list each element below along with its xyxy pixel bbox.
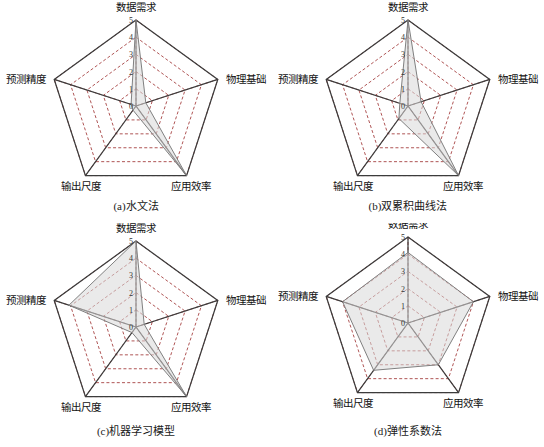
radar-panel-b: 012345数据需求物理基础应用效率输出尺度预测精度 (b)双累积曲线法 bbox=[272, 0, 544, 223]
radial-tick-label: 0 bbox=[129, 102, 133, 111]
radial-tick-label: 4 bbox=[129, 33, 133, 42]
radar-panel-a: 012345数据需求物理基础应用效率输出尺度预测精度 (a)水文法 bbox=[0, 0, 272, 223]
radar-chart-d: 012345数据需求物理基础应用效率输出尺度预测精度 bbox=[272, 223, 544, 447]
radial-tick-label: 3 bbox=[129, 271, 133, 280]
radial-tick-label: 3 bbox=[401, 267, 405, 276]
radial-tick-label: 2 bbox=[401, 285, 405, 294]
radar-panel-d: 012345数据需求物理基础应用效率输出尺度预测精度 (d)弹性系数法 bbox=[272, 223, 544, 446]
radar-axis-category-label: 预测精度 bbox=[278, 290, 319, 302]
radial-tick-label: 5 bbox=[401, 233, 405, 242]
radar-axis-category-label: 输出尺度 bbox=[333, 180, 374, 192]
radar-axis-category-label: 预测精度 bbox=[278, 73, 319, 85]
radar-axis-category-label: 输出尺度 bbox=[61, 401, 102, 413]
radar-chart-c: 012345数据需求物理基础应用效率输出尺度预测精度 bbox=[0, 223, 272, 447]
panel-caption-d: (d)弹性系数法 bbox=[272, 422, 544, 438]
radar-axis-line bbox=[85, 327, 136, 397]
panel-caption-a: (a)水文法 bbox=[0, 197, 272, 213]
radar-axis-category-label: 物理基础 bbox=[498, 290, 538, 302]
radial-tick-label: 0 bbox=[129, 323, 133, 332]
radar-axis-category-label: 数据需求 bbox=[116, 223, 157, 234]
radar-axis-line bbox=[54, 79, 136, 106]
radar-data-series bbox=[399, 20, 459, 176]
radial-tick-label: 3 bbox=[401, 50, 405, 59]
radial-tick-label: 0 bbox=[401, 102, 405, 111]
radar-axis-category-label: 应用效率 bbox=[443, 397, 483, 409]
radial-tick-label: 1 bbox=[401, 302, 405, 311]
radial-tick-label: 2 bbox=[401, 68, 405, 77]
radar-axis-category-label: 物理基础 bbox=[498, 73, 538, 85]
radar-axis-category-label: 应用效率 bbox=[171, 401, 211, 413]
radial-tick-label: 4 bbox=[129, 254, 133, 263]
radar-axis-line bbox=[326, 79, 408, 106]
radar-chart-b: 012345数据需求物理基础应用效率输出尺度预测精度 bbox=[272, 0, 544, 223]
radar-axis-category-label: 数据需求 bbox=[388, 223, 429, 230]
radial-tick-label: 2 bbox=[129, 289, 133, 298]
radial-tick-label: 3 bbox=[129, 50, 133, 59]
radar-chart-a: 012345数据需求物理基础应用效率输出尺度预测精度 bbox=[0, 0, 272, 223]
radar-axis-category-label: 数据需求 bbox=[116, 1, 157, 13]
radar-axis-category-label: 物理基础 bbox=[226, 294, 266, 306]
radar-axis-line bbox=[85, 106, 136, 176]
panel-caption-c: (c)机器学习模型 bbox=[0, 422, 272, 438]
radial-tick-label: 0 bbox=[401, 319, 405, 328]
radar-axis-category-label: 输出尺度 bbox=[61, 180, 102, 192]
radar-axis-category-label: 输出尺度 bbox=[333, 397, 374, 409]
radar-axis-category-label: 应用效率 bbox=[171, 180, 211, 192]
radar-axis-category-label: 预测精度 bbox=[6, 73, 47, 85]
radar-figure: 012345数据需求物理基础应用效率输出尺度预测精度 (a)水文法 012345… bbox=[0, 0, 544, 447]
radial-tick-label: 4 bbox=[401, 33, 405, 42]
radial-tick-label: 5 bbox=[401, 16, 405, 25]
radar-axis-category-label: 物理基础 bbox=[226, 73, 266, 85]
radar-axis-category-label: 预测精度 bbox=[6, 294, 47, 306]
radar-data-series bbox=[131, 20, 186, 176]
radial-tick-label: 5 bbox=[129, 237, 133, 246]
radar-axis-line bbox=[136, 300, 218, 327]
radial-tick-label: 4 bbox=[401, 250, 405, 259]
radar-panel-c: 012345数据需求物理基础应用效率输出尺度预测精度 (c)机器学习模型 bbox=[0, 223, 272, 446]
radar-axis-line bbox=[136, 79, 218, 106]
radial-tick-label: 2 bbox=[129, 68, 133, 77]
radar-axis-category-label: 数据需求 bbox=[388, 1, 429, 13]
radial-tick-label: 1 bbox=[129, 85, 133, 94]
radial-tick-label: 1 bbox=[129, 306, 133, 315]
radial-tick-label: 5 bbox=[129, 16, 133, 25]
panel-caption-b: (b)双累积曲线法 bbox=[272, 197, 544, 213]
radar-axis-category-label: 应用效率 bbox=[443, 180, 483, 192]
radar-panel-grid: 012345数据需求物理基础应用效率输出尺度预测精度 (a)水文法 012345… bbox=[0, 0, 544, 447]
radial-tick-label: 1 bbox=[401, 85, 405, 94]
